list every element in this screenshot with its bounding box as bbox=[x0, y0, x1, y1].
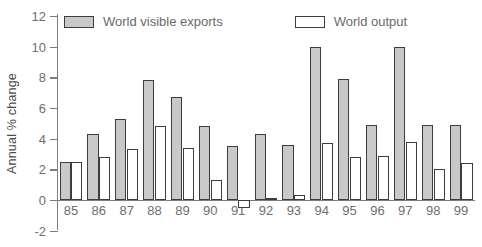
bar-95-exports bbox=[338, 79, 349, 200]
bar-89-output bbox=[183, 148, 194, 200]
bar-92-exports bbox=[255, 134, 266, 200]
bar-85-output bbox=[71, 162, 82, 200]
y-tick-label: 10 bbox=[12, 39, 46, 54]
legend-item-exports: World visible exports bbox=[64, 14, 223, 29]
bar-94-output bbox=[322, 143, 333, 200]
bar-93-output bbox=[294, 195, 305, 200]
bar-96-output bbox=[378, 156, 389, 200]
y-tick-label: 6 bbox=[12, 101, 46, 116]
bar-88-exports bbox=[143, 80, 154, 200]
bar-99-output bbox=[461, 163, 472, 200]
y-tick-label: 12 bbox=[12, 9, 46, 24]
y-tick-label: 8 bbox=[12, 70, 46, 85]
bar-94-exports bbox=[310, 47, 321, 200]
legend-label: World visible exports bbox=[103, 14, 223, 29]
bar-98-output bbox=[434, 169, 445, 200]
y-tick-label: 0 bbox=[12, 193, 46, 208]
bar-90-exports bbox=[199, 126, 210, 200]
x-tick-label: 99 bbox=[441, 203, 481, 218]
bar-91-exports bbox=[227, 146, 238, 200]
y-tick-mark bbox=[50, 231, 58, 232]
bar-87-exports bbox=[115, 119, 126, 200]
bar-97-exports bbox=[394, 47, 405, 200]
chart-legend: World visible exportsWorld output bbox=[64, 14, 407, 29]
bar-96-exports bbox=[366, 125, 377, 200]
bar-88-output bbox=[155, 126, 166, 200]
y-tick-label: 2 bbox=[12, 162, 46, 177]
bar-86-exports bbox=[87, 134, 98, 200]
bar-97-output bbox=[406, 142, 417, 200]
bar-chart: Annual % change 121086420-2 858687888990… bbox=[0, 0, 482, 247]
bar-93-exports bbox=[282, 145, 293, 200]
y-tick-label: 4 bbox=[12, 131, 46, 146]
bar-99-exports bbox=[450, 125, 461, 200]
y-axis-title: Annual % change bbox=[0, 0, 24, 247]
bar-87-output bbox=[127, 149, 138, 200]
y-tick-label: -2 bbox=[12, 223, 46, 238]
bar-90-output bbox=[211, 180, 222, 200]
legend-item-output: World output bbox=[295, 14, 407, 29]
bar-98-exports bbox=[422, 125, 433, 200]
bar-95-output bbox=[350, 157, 361, 200]
legend-swatch-icon bbox=[64, 16, 94, 28]
bar-86-output bbox=[99, 157, 110, 200]
bar-85-exports bbox=[60, 162, 71, 200]
bar-91-output bbox=[238, 200, 249, 208]
bar-92-output bbox=[266, 198, 277, 200]
legend-swatch-icon bbox=[295, 16, 325, 28]
legend-label: World output bbox=[334, 14, 407, 29]
bar-89-exports bbox=[171, 97, 182, 200]
